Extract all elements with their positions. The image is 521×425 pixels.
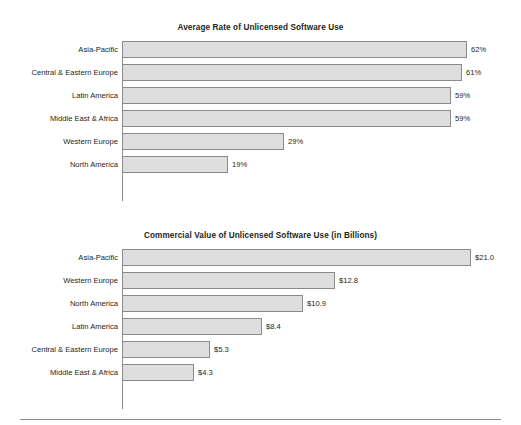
value-label: 59% xyxy=(455,110,470,127)
bar-row: North America 19% xyxy=(0,156,521,173)
category-label: North America xyxy=(0,295,118,312)
value-label: 61% xyxy=(466,64,481,81)
chart-average-rate: Average Rate of Unlicensed Software Use … xyxy=(0,0,521,218)
chart-title-average-rate: Average Rate of Unlicensed Software Use xyxy=(0,0,521,32)
category-label: Asia-Pacific xyxy=(0,249,118,266)
value-label: 29% xyxy=(288,133,303,150)
chart-commercial-value: Commercial Value of Unlicensed Software … xyxy=(0,218,521,408)
value-label: $21.0 xyxy=(475,249,494,266)
bar xyxy=(122,318,262,335)
footer-divider xyxy=(20,419,501,420)
category-label: Latin America xyxy=(0,87,118,104)
category-label: Central & Eastern Europe xyxy=(0,341,118,358)
bar xyxy=(122,41,467,58)
bar xyxy=(122,341,210,358)
category-label: Western Europe xyxy=(0,272,118,289)
bar xyxy=(122,156,228,173)
category-label: Asia-Pacific xyxy=(0,41,118,58)
value-label: $4.3 xyxy=(198,364,213,381)
bar xyxy=(122,110,451,127)
bar-row: Middle East & Africa $4.3 xyxy=(0,364,521,381)
bar xyxy=(122,364,194,381)
value-label: $10.9 xyxy=(307,295,326,312)
bar-row: Latin America $8.4 xyxy=(0,318,521,335)
category-label: Middle East & Africa xyxy=(0,110,118,127)
bar-row: North America $10.9 xyxy=(0,295,521,312)
bar xyxy=(122,295,303,312)
bar xyxy=(122,133,284,150)
bar-row: Asia-Pacific $21.0 xyxy=(0,249,521,266)
bar xyxy=(122,249,471,266)
category-label: Middle East & Africa xyxy=(0,364,118,381)
value-label: 19% xyxy=(232,156,247,173)
bar-row: Asia-Pacific 62% xyxy=(0,41,521,58)
bar-row: Western Europe 29% xyxy=(0,133,521,150)
bar-row: Latin America 59% xyxy=(0,87,521,104)
bar-row: Middle East & Africa 59% xyxy=(0,110,521,127)
value-label: $12.8 xyxy=(339,272,358,289)
bar xyxy=(122,87,451,104)
bar-row: Western Europe $12.8 xyxy=(0,272,521,289)
value-label: $5.3 xyxy=(214,341,229,358)
plot-area-commercial-value: Asia-Pacific $21.0 Western Europe $12.8 … xyxy=(0,249,521,409)
value-label: 62% xyxy=(471,41,486,58)
category-label: Central & Eastern Europe xyxy=(0,64,118,81)
value-label: $8.4 xyxy=(266,318,281,335)
category-label: Western Europe xyxy=(0,133,118,150)
bar xyxy=(122,64,462,81)
chart-title-commercial-value: Commercial Value of Unlicensed Software … xyxy=(0,218,521,240)
plot-area-average-rate: Asia-Pacific 62% Central & Eastern Europ… xyxy=(0,41,521,201)
bar xyxy=(122,272,335,289)
category-label: Latin America xyxy=(0,318,118,335)
bar-row: Central & Eastern Europe $5.3 xyxy=(0,341,521,358)
category-label: North America xyxy=(0,156,118,173)
value-label: 59% xyxy=(455,87,470,104)
bar-row: Central & Eastern Europe 61% xyxy=(0,64,521,81)
